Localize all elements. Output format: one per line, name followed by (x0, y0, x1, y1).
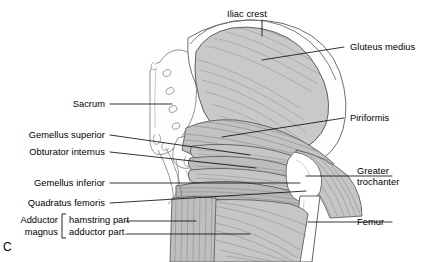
panel-identifier: C (3, 240, 12, 254)
label-quadratus-femoris: Quadratus femoris (0, 198, 105, 209)
label-adductor-line1: Adductor (0, 215, 58, 226)
label-gemellus-inferior: Gemellus inferior (0, 178, 105, 189)
label-piriformis: Piriformis (350, 113, 389, 124)
label-obturator-internus: Obturator internus (0, 147, 105, 158)
label-adductor-part: adductor part (69, 227, 124, 238)
adductor-magnus-muscle (170, 197, 308, 262)
label-hamstring-part: hamstring part (69, 215, 129, 226)
adductor-magnus-bracket (62, 214, 66, 238)
label-gemellus-superior: Gemellus superior (0, 130, 105, 141)
label-greater-trochanter-line1: Greater (357, 166, 389, 177)
label-gluteus-medius: Gluteus medius (350, 42, 415, 53)
label-sacrum: Sacrum (0, 99, 105, 110)
label-greater-trochanter-line2: trochanter (357, 177, 399, 188)
label-femur: Femur (357, 217, 384, 228)
label-adductor-line2: magnus (0, 227, 58, 238)
label-iliac-crest: Iliac crest (227, 9, 267, 20)
